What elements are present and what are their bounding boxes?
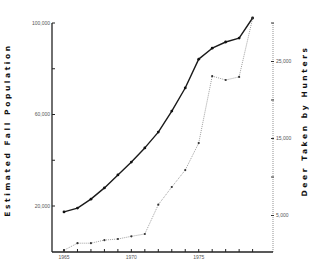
- harvest-point: [63, 249, 65, 251]
- left-axis-title: Estimated Fall Population: [3, 43, 12, 216]
- population-point: [170, 110, 173, 113]
- harvest-point: [184, 169, 186, 171]
- population-point: [76, 207, 79, 210]
- population-point: [224, 41, 227, 44]
- population-point: [197, 58, 200, 61]
- harvest-point: [252, 17, 254, 19]
- harvest-point: [171, 186, 173, 188]
- series-group: [63, 17, 254, 252]
- harvest-point: [76, 242, 78, 244]
- population-point: [116, 173, 119, 176]
- right-tick-label: 15,000: [276, 135, 292, 141]
- right-axis-title: Deer Taken by Hunters: [300, 45, 309, 196]
- left-tick-label: 60,000: [35, 111, 51, 117]
- harvest-point: [157, 204, 159, 206]
- harvest-point: [103, 239, 105, 241]
- harvest-point: [238, 76, 240, 78]
- left-tick-label: 20,000: [35, 203, 51, 209]
- x-tick-label: 1965: [58, 254, 69, 260]
- population-point: [238, 37, 241, 40]
- harvest-point: [144, 233, 146, 235]
- x-tick-label: 1975: [193, 254, 204, 260]
- harvest-point: [130, 235, 132, 237]
- harvest-point: [90, 242, 92, 244]
- harvest-point: [117, 238, 119, 240]
- harvest-point: [198, 142, 200, 144]
- left-tick-label: 100,000: [32, 20, 50, 26]
- harvest-line: [64, 18, 253, 250]
- harvest-point: [211, 75, 213, 77]
- right-tick-label: 5,000: [276, 212, 289, 218]
- population-point: [211, 47, 214, 50]
- axes: [52, 23, 274, 252]
- population-point: [103, 187, 106, 190]
- population-point: [184, 87, 187, 90]
- population-point: [130, 161, 133, 164]
- harvest-point: [225, 79, 227, 81]
- dual-axis-line-chart: 20,00060,000100,0005,00015,00025,0001965…: [0, 0, 322, 269]
- population-point: [143, 146, 146, 149]
- population-point: [157, 131, 160, 134]
- population-point: [63, 211, 66, 214]
- population-line: [64, 18, 253, 212]
- labels-group: 20,00060,000100,0005,00015,00025,0001965…: [32, 20, 292, 260]
- population-point: [90, 198, 93, 201]
- x-tick-label: 1970: [126, 254, 137, 260]
- right-tick-label: 25,000: [276, 58, 292, 64]
